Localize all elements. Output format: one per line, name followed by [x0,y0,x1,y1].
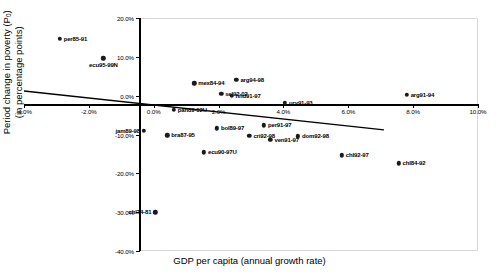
y-tick-mark [136,173,140,174]
x-tick-label: 0.0% [147,108,161,115]
y-axis-title-line1-end: ) [1,10,12,13]
x-tick-label: 8.0% [406,108,420,115]
data-point-label: arg94-98 [240,77,263,83]
data-point [57,37,61,41]
x-tick-label: 2.0% [212,108,226,115]
y-tick-mark [136,135,140,136]
y-tick-mark [136,18,140,19]
data-point-label: chl74-81 [129,209,152,215]
data-point-label: chl84-92 [403,160,426,166]
data-point-label: dom92-98 [302,133,329,139]
y-tick-mark [136,96,140,97]
data-point-label: ecu90-97U [208,149,237,155]
x-axis-line [24,104,478,106]
data-point-label: ven91-97 [274,137,299,143]
y-tick-mark [136,251,140,252]
data-point-label: ecu95-99N [89,62,118,68]
x-tick-label: 10.0% [469,108,486,115]
data-point-label: pan89-02U [178,107,207,113]
data-point-label: mex84-94 [198,80,224,86]
data-point-label: per85-91 [64,36,87,42]
data-point-label: ury91-93 [289,100,312,106]
scatter-chart: 20.0%10.0%0.0%-10.0%-20.0%-30.0%-40.0%-4… [0,0,499,277]
y-tick-mark [136,57,140,58]
x-axis-title: GDP per capita (annual growth rate) [0,255,499,266]
x-tick-label: -2.0% [81,108,97,115]
x-tick-label: 4.0% [277,108,291,115]
data-point-label: arg91-94 [411,92,434,98]
y-axis-title-line2: (in percentage points) [13,26,24,118]
data-point-label: per91-97 [268,122,291,128]
data-point-label: bol89-97 [221,125,244,131]
data-point-label: chl92-97 [346,152,369,158]
y-tick-label: 20.0% [98,15,134,22]
data-point-label: bra87-95 [171,132,194,138]
x-tick-label: 6.0% [341,108,355,115]
data-point-label: jam89-98 [115,128,140,134]
y-axis-title-subscript: 0 [5,13,12,17]
y-tick-label: -40.0% [98,248,134,255]
y-tick-label: -20.0% [98,170,134,177]
y-tick-label: 0.0% [98,92,134,99]
data-point-label: hnd91-97 [236,93,261,99]
y-axis-title: Period change in poverty (P0) (in percen… [1,0,26,167]
y-axis-title-line1: Period change in poverty (P [1,17,12,134]
